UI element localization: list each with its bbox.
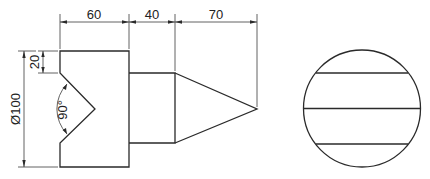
side-view xyxy=(304,50,421,167)
technical-drawing: 60 40 70 20 Ø100 90° xyxy=(0,0,430,179)
dim-notch-depth: 20 xyxy=(27,55,42,69)
dim-diameter: Ø100 xyxy=(8,93,23,125)
notch-depth-dimension: 20 xyxy=(27,51,58,73)
horizontal-dimensions: 60 40 70 xyxy=(60,7,257,107)
dim-notch-angle: 90° xyxy=(55,100,70,120)
dim-length-cone: 70 xyxy=(209,7,223,22)
cylinder-outline xyxy=(129,73,175,143)
dim-length-base: 60 xyxy=(87,7,101,22)
dim-length-cylinder: 40 xyxy=(145,7,159,22)
cone-outline xyxy=(175,73,257,143)
notch-angle-dimension: 90° xyxy=(55,84,70,134)
base-block-outline xyxy=(60,51,129,167)
front-view xyxy=(60,51,257,167)
